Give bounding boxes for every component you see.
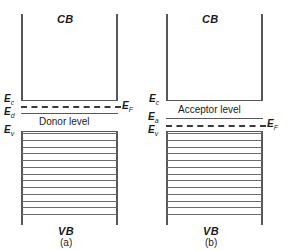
ef-subscript-b: F [274,124,278,131]
valence-band-label-a: VB [58,226,74,237]
conduction-band-label-b: CB [202,14,219,25]
ev-symbol-b: E [148,124,155,135]
conduction-band-label-a: CB [57,14,74,25]
valence-band-energy-line [22,167,117,168]
panel-caption-b: (b) [205,238,217,248]
valence-band-energy-line [22,160,117,161]
ev-label-a: Ev [4,125,14,137]
acceptor-level-annotation-b: Acceptor level [178,105,241,115]
valence-band-energy-line [22,147,117,148]
valence-band-energy-line [167,187,262,188]
valence-band-energy-line [167,214,262,215]
ea-label-b: Ea [148,112,159,124]
ea-symbol-b: E [148,111,155,122]
panel-a: CB Ec EF Ed Donor level Ev VB (a) [0,0,144,251]
ev-level-line-a [21,131,118,132]
ev-subscript-a: v [11,130,15,137]
ef-symbol-a: E [122,100,129,111]
valence-band-energy-line [22,207,117,208]
ev-level-line-b [166,131,263,132]
valence-band-energy-line [22,214,117,215]
valence-band-energy-line [22,194,117,195]
ef-subscript-a: F [129,106,133,113]
ef-label-b: EF [267,119,278,131]
valence-band-energy-line [167,147,262,148]
valence-band-label-b: VB [203,226,219,237]
valence-band-energy-line [167,167,262,168]
valence-band-energy-line [22,153,117,154]
ed-label-a: Ed [4,107,15,119]
valence-band-energy-line [22,201,117,202]
ea-level-line-b [166,118,263,119]
panel-b: CB Ec Acceptor level Ea EF Ev VB (b) [145,0,289,251]
valence-band-energy-line [167,207,262,208]
ev-symbol-a: E [4,124,11,135]
valence-band-energy-line [167,180,262,181]
ef-symbol-b: E [267,118,274,129]
valence-band-energy-line [167,194,262,195]
ec-symbol-a: E [4,93,11,104]
ec-symbol-b: E [149,93,156,104]
valence-band-energy-line [167,133,262,134]
conduction-band-left-wall-b [166,14,168,101]
ed-subscript-a: d [11,112,15,119]
conduction-band-right-wall-a [116,14,118,101]
valence-band-energy-line [167,140,262,141]
valence-band-energy-line [167,201,262,202]
panel-caption-a: (a) [60,238,72,248]
ev-label-b: Ev [148,125,158,137]
valence-band-energy-line [167,160,262,161]
ea-subscript-b: a [155,117,159,124]
fermi-level-line-a [21,106,121,108]
valence-band-fill-lines-a [22,133,117,223]
ec-label-a: Ec [4,94,14,106]
conduction-band-right-wall-b [261,14,263,101]
valence-band-energy-line [167,153,262,154]
ec-level-line-a [21,100,118,101]
ec-level-line-b [166,100,263,101]
valence-band-fill-lines-b [167,133,262,223]
conduction-band-left-wall-a [21,14,23,101]
valence-band-energy-line [22,180,117,181]
band-diagram-figure: CB Ec EF Ed Donor level Ev VB (a) CB Ec … [0,0,289,251]
fermi-level-line-b [166,125,266,127]
ef-label-a: EF [122,101,133,113]
ev-subscript-b: v [155,130,159,137]
ec-label-b: Ec [149,94,159,106]
ed-symbol-a: E [4,106,11,117]
valence-band-energy-line [22,187,117,188]
valence-band-energy-line [22,174,117,175]
ec-subscript-b: c [156,99,160,106]
ec-subscript-a: c [11,99,15,106]
donor-level-annotation-a: Donor level [39,117,90,127]
valence-band-energy-line [167,174,262,175]
valence-band-energy-line [22,140,117,141]
valence-band-energy-line [22,133,117,134]
ed-level-line-a [21,113,118,114]
